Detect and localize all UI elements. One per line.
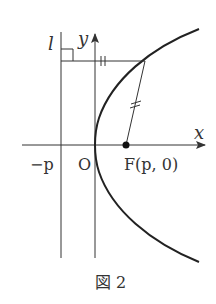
x-axis-label: x [194,122,204,143]
neg-p-label: −p [30,155,54,174]
figure-caption: 図 2 [95,273,126,292]
focus-label: F(p, 0) [124,155,178,174]
focus-point [123,142,130,149]
origin-label: O [78,155,91,174]
right-angle-mark [61,49,73,61]
y-axis-label: y [77,28,89,49]
directrix-label: l [48,33,54,54]
parabola-diagram: l y x −p O F(p, 0) 図 2 [0,0,216,304]
